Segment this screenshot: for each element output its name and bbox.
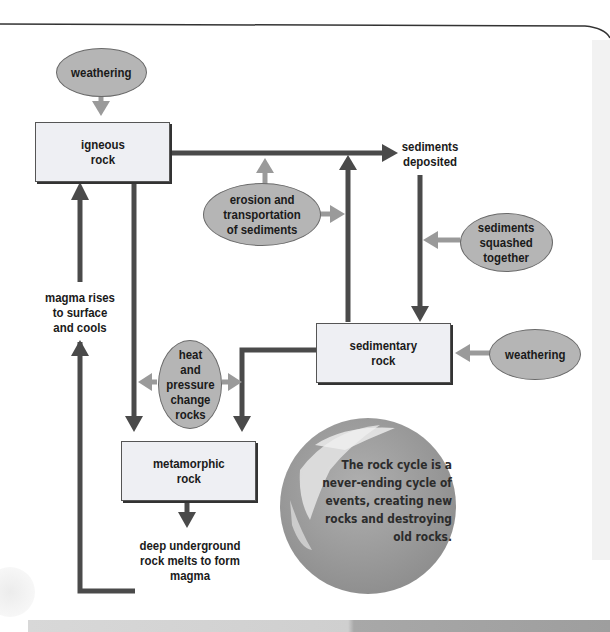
page-border — [0, 24, 610, 38]
deep-melts-label: deep undergroundrock melts to formmagma — [137, 538, 243, 583]
magma-rises-label: magma risesto surfaceand cools — [36, 290, 124, 335]
erosion-label: erosion andtransportationof sediments — [223, 192, 301, 237]
heat-pressure-label: heatandpressurechangerocks — [166, 347, 214, 422]
igneous-rock-node: igneousrock — [35, 122, 170, 182]
erosion-process: erosion andtransportationof sediments — [203, 183, 321, 246]
weathering-right-label: weathering — [505, 347, 565, 362]
bottom-bar — [28, 620, 610, 632]
right-edge-shade — [592, 40, 610, 560]
igneous-rock-label: igneousrock — [81, 137, 125, 167]
squashed-label: sedimentssquashedtogether — [478, 220, 535, 265]
weathering-right-process: weathering — [489, 329, 581, 380]
weathering-top-label: weathering — [71, 65, 131, 80]
heat-pressure-process: heatandpressurechangerocks — [158, 340, 222, 429]
sediments-deposited-label: sedimentsdeposited — [395, 139, 465, 169]
globe-caption: The rock cycle is a never-ending cycle o… — [319, 456, 452, 546]
sedimentary-rock-label: sedimentaryrock — [350, 338, 417, 368]
metamorphic-rock-node: metamorphicrock — [121, 441, 256, 501]
weathering-top-process: weathering — [56, 48, 147, 97]
sedimentary-rock-node: sedimentaryrock — [316, 323, 451, 383]
squashed-process: sedimentssquashedtogether — [460, 213, 553, 272]
faded-circle — [0, 567, 35, 617]
metamorphic-rock-label: metamorphicrock — [153, 456, 225, 486]
